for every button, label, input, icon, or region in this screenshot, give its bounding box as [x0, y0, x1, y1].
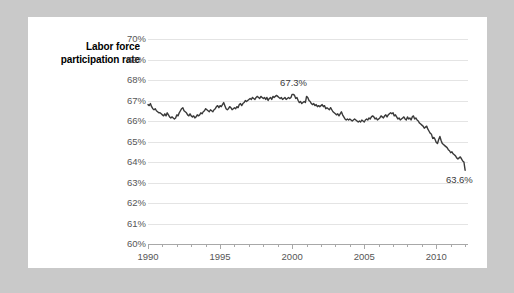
- x-tick-minor: [393, 244, 394, 247]
- x-tick-minor: [451, 244, 452, 247]
- x-tick-label: 2000: [282, 251, 303, 262]
- x-tick-minor: [177, 244, 178, 247]
- y-tick-label: 63%: [127, 177, 146, 188]
- x-tick-label: 2005: [354, 251, 375, 262]
- labor-force-participation-line: [148, 39, 468, 244]
- y-tick-label: 65%: [127, 136, 146, 147]
- chart-card: Labor force participation rate 70%69%68%…: [28, 17, 487, 268]
- x-tick-minor: [422, 244, 423, 247]
- data-annotation: 67.3%: [280, 77, 307, 88]
- x-axis: 19901995200020052010: [148, 244, 468, 266]
- y-tick-label: 62%: [127, 197, 146, 208]
- x-tick-major: [364, 244, 365, 249]
- x-tick-minor: [307, 244, 308, 247]
- x-tick-major: [436, 244, 437, 249]
- x-tick-minor: [278, 244, 279, 247]
- y-tick-label: 68%: [127, 74, 146, 85]
- x-tick-label: 2010: [426, 251, 447, 262]
- x-tick-major: [292, 244, 293, 249]
- y-tick-label: 69%: [127, 54, 146, 65]
- x-tick-minor: [234, 244, 235, 247]
- x-tick-label: 1990: [137, 251, 158, 262]
- x-tick-minor: [407, 244, 408, 247]
- plot-area: 70%69%68%67%66%65%64%63%62%61%60% 67.3%6…: [120, 39, 468, 244]
- x-tick-minor: [335, 244, 336, 247]
- x-tick-label: 1995: [209, 251, 230, 262]
- y-tick-label: 70%: [127, 33, 146, 44]
- y-tick-label: 66%: [127, 115, 146, 126]
- x-tick-minor: [191, 244, 192, 247]
- y-tick-label: 67%: [127, 95, 146, 106]
- x-tick-minor: [379, 244, 380, 247]
- x-tick-major: [148, 244, 149, 249]
- x-tick-minor: [350, 244, 351, 247]
- series-path: [148, 94, 465, 170]
- x-tick-minor: [263, 244, 264, 247]
- data-annotation: 63.6%: [446, 174, 473, 185]
- x-tick-minor: [206, 244, 207, 247]
- y-tick-label: 61%: [127, 218, 146, 229]
- x-tick-minor: [321, 244, 322, 247]
- x-tick-minor: [465, 244, 466, 247]
- y-tick-label: 60%: [127, 238, 146, 249]
- x-tick-minor: [162, 244, 163, 247]
- y-tick-label: 64%: [127, 156, 146, 167]
- x-tick-major: [220, 244, 221, 249]
- x-tick-minor: [249, 244, 250, 247]
